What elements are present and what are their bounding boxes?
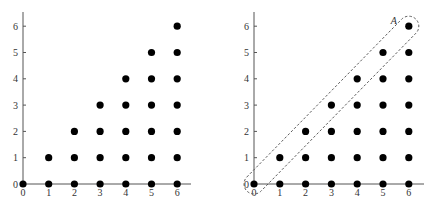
x-tick-label: 2 bbox=[72, 187, 77, 198]
lattice-point bbox=[174, 180, 181, 187]
lattice-point bbox=[354, 154, 361, 161]
region-label-A: A bbox=[390, 15, 398, 26]
lattice-point bbox=[148, 102, 155, 109]
lattice-point bbox=[122, 102, 129, 109]
lattice-point bbox=[405, 49, 412, 56]
x-tick-label: 6 bbox=[175, 187, 180, 198]
lattice-point bbox=[148, 128, 155, 135]
x-tick-label: 0 bbox=[21, 187, 26, 198]
lattice-point bbox=[148, 180, 155, 187]
x-tick-label: 1 bbox=[46, 187, 51, 198]
lattice-point bbox=[354, 75, 361, 82]
lattice-point bbox=[302, 180, 309, 187]
lattice-point bbox=[71, 154, 78, 161]
x-tick-label: 3 bbox=[98, 187, 103, 198]
y-tick-label: 1 bbox=[244, 152, 249, 163]
lattice-point bbox=[122, 128, 129, 135]
lattice-point bbox=[379, 154, 386, 161]
x-tick-label: 5 bbox=[381, 187, 386, 198]
lattice-point bbox=[379, 75, 386, 82]
lattice-point bbox=[302, 154, 309, 161]
figure-canvas: 01234560123456 01234560123456A bbox=[0, 0, 436, 210]
lattice-point bbox=[405, 75, 412, 82]
lattice-point bbox=[148, 49, 155, 56]
y-tick-label: 2 bbox=[244, 126, 249, 137]
lattice-point bbox=[405, 180, 412, 187]
lattice-point bbox=[122, 75, 129, 82]
lattice-point bbox=[97, 102, 104, 109]
x-tick-label: 2 bbox=[303, 187, 308, 198]
lattice-point bbox=[302, 128, 309, 135]
lattice-point bbox=[328, 128, 335, 135]
lattice-point bbox=[71, 128, 78, 135]
y-tick-label: 5 bbox=[13, 47, 18, 58]
x-tick-label: 6 bbox=[406, 187, 411, 198]
lattice-point bbox=[174, 102, 181, 109]
lattice-point bbox=[97, 180, 104, 187]
lattice-point bbox=[276, 180, 283, 187]
x-tick-label: 4 bbox=[355, 187, 360, 198]
y-tick-label: 4 bbox=[13, 73, 18, 84]
lattice-point bbox=[379, 49, 386, 56]
lattice-point bbox=[405, 154, 412, 161]
lattice-point bbox=[354, 102, 361, 109]
right-plot-panel: 01234560123456A bbox=[240, 12, 424, 198]
x-tick-label: 0 bbox=[252, 187, 257, 198]
y-tick-label: 6 bbox=[13, 21, 18, 32]
lattice-point bbox=[379, 128, 386, 135]
lattice-point bbox=[148, 75, 155, 82]
lattice-point bbox=[97, 154, 104, 161]
lattice-point bbox=[45, 180, 52, 187]
y-tick-label: 0 bbox=[13, 179, 18, 190]
lattice-point bbox=[405, 102, 412, 109]
lattice-point bbox=[122, 154, 129, 161]
lattice-point bbox=[97, 128, 104, 135]
lattice-point bbox=[250, 180, 257, 187]
x-tick-label: 5 bbox=[149, 187, 154, 198]
lattice-point bbox=[174, 154, 181, 161]
x-tick-label: 4 bbox=[123, 187, 128, 198]
lattice-point bbox=[354, 180, 361, 187]
lattice-point bbox=[328, 102, 335, 109]
lattice-point bbox=[174, 75, 181, 82]
lattice-point bbox=[405, 128, 412, 135]
lattice-point bbox=[379, 180, 386, 187]
lattice-point bbox=[354, 128, 361, 135]
lattice-point bbox=[174, 49, 181, 56]
lattice-point bbox=[174, 128, 181, 135]
y-tick-label: 5 bbox=[244, 47, 249, 58]
y-tick-label: 3 bbox=[13, 100, 18, 111]
lattice-point bbox=[405, 23, 412, 30]
lattice-point bbox=[148, 154, 155, 161]
lattice-point bbox=[71, 180, 78, 187]
lattice-point bbox=[174, 23, 181, 30]
y-tick-label: 3 bbox=[244, 100, 249, 111]
left-plot-panel: 01234560123456 bbox=[13, 12, 191, 198]
lattice-point bbox=[122, 180, 129, 187]
lattice-point bbox=[328, 180, 335, 187]
y-tick-label: 6 bbox=[244, 21, 249, 32]
lattice-point bbox=[328, 154, 335, 161]
x-tick-label: 3 bbox=[329, 187, 334, 198]
lattice-point bbox=[19, 180, 26, 187]
lattice-point bbox=[45, 154, 52, 161]
y-tick-label: 2 bbox=[13, 126, 18, 137]
y-tick-label: 1 bbox=[13, 152, 18, 163]
x-tick-label: 1 bbox=[277, 187, 282, 198]
lattice-point bbox=[379, 102, 386, 109]
lattice-point bbox=[276, 154, 283, 161]
y-tick-label: 4 bbox=[244, 73, 249, 84]
